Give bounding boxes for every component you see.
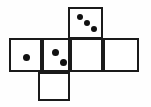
pip-dot bbox=[84, 20, 90, 26]
top-face-three-pips bbox=[68, 7, 103, 39]
right-face-blank bbox=[103, 38, 139, 72]
die-net-figure bbox=[0, 0, 151, 107]
third-face-blank bbox=[70, 38, 103, 72]
pip-dot bbox=[60, 59, 67, 66]
pip-dot bbox=[23, 54, 30, 61]
bottom-face-blank bbox=[38, 72, 70, 101]
left-face-one-pip bbox=[9, 38, 42, 72]
second-face-two-pips bbox=[42, 38, 70, 72]
pip-dot bbox=[77, 14, 83, 20]
pip-dot bbox=[91, 26, 97, 32]
pip-dot bbox=[52, 49, 59, 56]
